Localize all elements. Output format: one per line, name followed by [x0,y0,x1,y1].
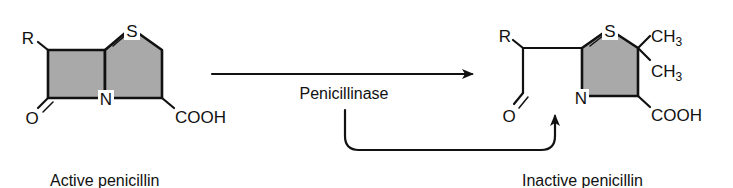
carbonyl-bond-2 [43,102,53,112]
sulfur-atom: S [126,22,137,41]
carbonyl-bond [514,93,523,104]
methyl-bond-bottom [638,48,650,60]
r-group: R [499,27,511,46]
nitrogen-atom: N [100,90,112,109]
cooh-bond [162,98,174,108]
oxygen-atom: O [25,109,38,128]
oxygen-atom: O [502,107,515,126]
cooh-group: COOH [651,106,702,125]
penicillinase-reaction-diagram: S N R O COOH Active penicillin Penicilli… [0,0,733,188]
cooh-bond [638,96,650,107]
methyl-group-top: CH3 [651,27,683,49]
methyl-top-subscript: 3 [676,35,683,49]
r-bond [38,42,48,50]
methyl-bottom-subscript: 3 [676,70,683,84]
methyl-bond-top [638,36,650,48]
nitrogen-atom: N [575,89,587,108]
beta-lactam-ring [48,50,105,98]
methyl-top-ch: CH [651,27,676,46]
carbonyl-bond-2 [519,97,528,108]
r-bond [513,40,523,48]
methyl-bottom-ch: CH [651,62,676,81]
enzyme-label: Penicillinase [300,85,389,102]
cooh-group: COOH [175,108,226,127]
methyl-group-bottom: CH3 [651,62,683,84]
active-penicillin-label: Active penicillin [50,172,159,188]
sulfur-atom: S [604,22,615,41]
curved-arrow [345,110,555,150]
active-penicillin-structure: S N R O COOH [22,20,226,128]
inactive-penicillin-structure: S N R O CH3 CH3 COOH [499,20,702,126]
r-group: R [22,29,34,48]
carbonyl-bond [38,98,48,108]
inactive-penicillin-label: Inactive penicillin [522,172,643,188]
